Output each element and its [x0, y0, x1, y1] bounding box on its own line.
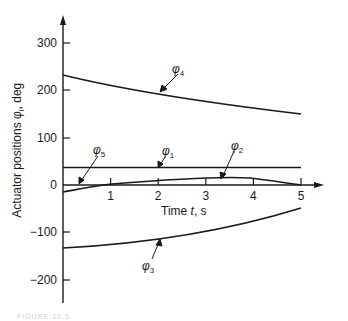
y-tick-label: 300 — [37, 36, 57, 50]
x-axis-label: Time t, s — [161, 204, 207, 218]
series-phi4-line — [63, 75, 301, 114]
y-ticks — [63, 43, 70, 280]
series-label-phi3: φ3 — [142, 259, 155, 275]
y-axis-arrow-icon — [60, 15, 66, 25]
y-tick-label: −200 — [30, 273, 57, 287]
series-label-phi2: φ2 — [231, 139, 244, 155]
y-tick-label: 0 — [50, 178, 57, 192]
chart: 300 200 100 0 −100 −200 1 2 3 4 5 Time t… — [0, 0, 348, 321]
y-tick-label: −100 — [30, 225, 57, 239]
x-axis-arrow-icon — [314, 182, 324, 188]
x-tick-label: 3 — [202, 189, 209, 203]
x-tick-label: 5 — [298, 189, 305, 203]
x-tick-label: 4 — [250, 189, 257, 203]
x-tick-label: 2 — [155, 189, 162, 203]
x-tick-label: 1 — [107, 189, 114, 203]
series-label-phi4: φ4 — [172, 62, 185, 78]
series-label-phi1: φ1 — [162, 144, 175, 160]
y-axis-label: Actuator positions φi, deg — [10, 80, 26, 220]
figure-caption: FIGURE 10.5 — [17, 313, 70, 320]
y-tick-label: 200 — [37, 83, 57, 97]
y-tick-label: 100 — [37, 131, 57, 145]
series-label-phi5: φ5 — [93, 143, 106, 159]
